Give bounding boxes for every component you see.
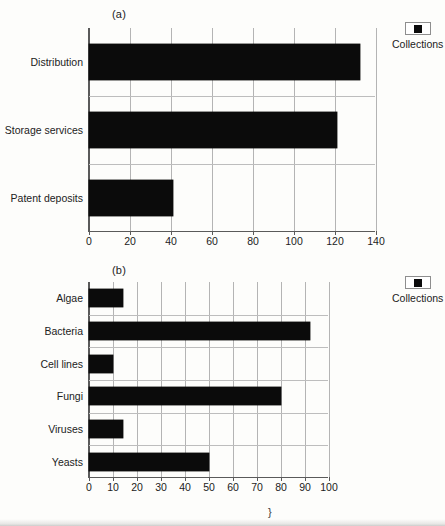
x-axis-tick-label: 60: [206, 236, 218, 247]
category-separator: [89, 413, 328, 414]
chart-panel-a: (a) 020406080100120140DistributionStorag…: [0, 0, 445, 258]
bar: [89, 44, 360, 79]
category-separator: [89, 164, 375, 165]
x-axis-tick-label: 100: [285, 236, 303, 247]
y-axis-category-label: Fungi: [57, 391, 83, 402]
bar: [89, 322, 310, 340]
bar: [89, 387, 281, 405]
x-axis-tick-label: 70: [251, 482, 263, 493]
page-artifact-mark: }: [268, 506, 272, 518]
bar: [89, 453, 209, 471]
gridline-x: [376, 28, 377, 231]
legend-label-collections-b: Collections: [392, 293, 443, 304]
x-axis-tick-label: 30: [155, 482, 167, 493]
x-axis-tick-label: 50: [203, 482, 215, 493]
bar: [89, 420, 123, 438]
x-axis-tick-label: 0: [86, 482, 92, 493]
legend-swatch-box-a: [405, 22, 431, 35]
chart-panel-b: (b) 0102030405060708090100AlgaeBacteriaC…: [0, 258, 445, 526]
y-axis-category-label: Viruses: [48, 424, 83, 435]
bar: [89, 112, 337, 147]
x-axis-tick-label: 60: [227, 482, 239, 493]
legend-square-icon: [414, 279, 422, 287]
gridline-x: [329, 282, 330, 477]
x-axis-tick-label: 20: [131, 482, 143, 493]
x-axis-tick-label: 40: [165, 236, 177, 247]
y-axis-category-label: Patent deposits: [11, 193, 83, 204]
bar: [89, 289, 123, 307]
category-separator: [89, 96, 375, 97]
legend-swatch-box-b: [405, 276, 431, 289]
panel-b-caption: (b): [112, 264, 126, 276]
y-axis-category-label: Storage services: [5, 125, 83, 136]
category-separator: [89, 380, 328, 381]
category-separator: [89, 445, 328, 446]
x-axis-tick-label: 120: [326, 236, 344, 247]
x-axis-tick-label: 0: [86, 236, 92, 247]
category-separator: [89, 347, 328, 348]
panel-a-caption: (a): [112, 8, 126, 20]
x-axis-tick-label: 140: [367, 236, 385, 247]
plot-area-a: 020406080100120140DistributionStorage se…: [88, 28, 375, 232]
x-axis-tick-label: 80: [275, 482, 287, 493]
x-axis-tick-label: 20: [124, 236, 136, 247]
x-axis-tick-label: 90: [299, 482, 311, 493]
category-separator: [89, 315, 328, 316]
y-axis-category-label: Yeasts: [52, 456, 83, 467]
legend-b: Collections: [392, 276, 443, 304]
x-axis-tick-label: 80: [247, 236, 259, 247]
legend-square-icon: [414, 25, 422, 33]
y-axis-category-label: Bacteria: [44, 326, 83, 337]
x-axis-tick-label: 40: [179, 482, 191, 493]
legend-a: Collections: [392, 22, 443, 50]
bar: [89, 180, 173, 215]
x-axis-tick-label: 10: [107, 482, 119, 493]
plot-area-b: 0102030405060708090100AlgaeBacteriaCell …: [88, 282, 328, 478]
y-axis-category-label: Cell lines: [40, 358, 83, 369]
page-edge-smudge: [0, 519, 445, 526]
y-axis-category-label: Algae: [56, 293, 83, 304]
y-axis-category-label: Distribution: [30, 57, 83, 68]
legend-label-collections-a: Collections: [392, 39, 443, 50]
x-axis-tick-label: 100: [320, 482, 338, 493]
bar: [89, 355, 113, 373]
